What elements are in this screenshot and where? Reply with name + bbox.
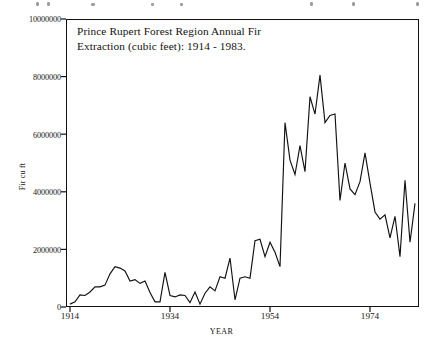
fir-extraction-data-line <box>70 75 415 304</box>
chart-figure: Prince Rupert Forest Region Annual Fir E… <box>0 0 443 358</box>
chart-plot-svg <box>0 0 443 358</box>
y-axis-ticks <box>61 19 66 307</box>
x-axis-ticks <box>70 307 370 312</box>
